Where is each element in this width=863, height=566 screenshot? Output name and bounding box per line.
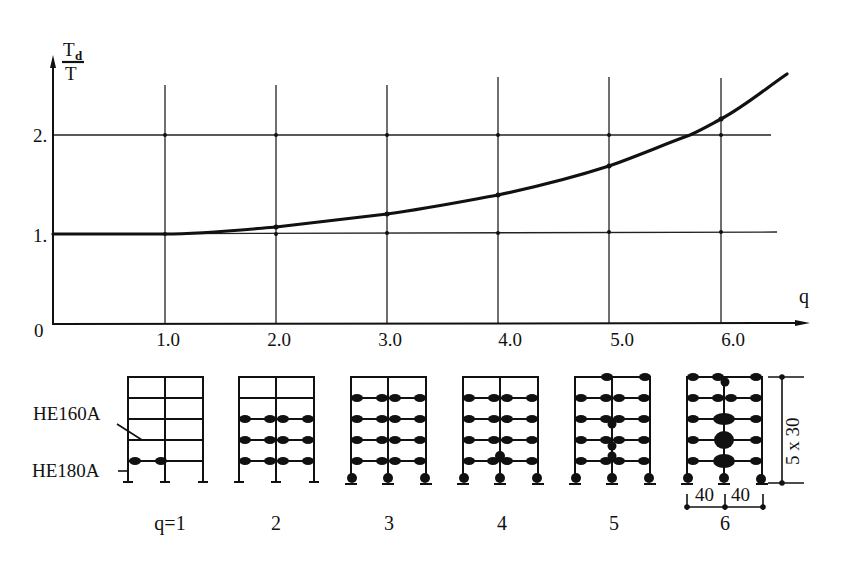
- x-tick-6: 6.0: [721, 329, 745, 350]
- height-dimension-label: 5 x 30: [782, 418, 803, 466]
- y-tick-1: 1.: [33, 225, 47, 246]
- frame-q6: [681, 373, 768, 484]
- frame-q2: [234, 377, 319, 482]
- frame-q5: [569, 373, 656, 484]
- vertical-gridlines: [165, 77, 721, 324]
- y-label-subscript: d: [75, 48, 83, 63]
- horizontal-gridlines: [53, 135, 777, 234]
- x-tick-2: 2.0: [267, 329, 291, 350]
- td-over-t-curve: [53, 74, 787, 234]
- x-axis-arrow-icon: [795, 320, 810, 326]
- figure: T d T 2. 1. 0 1.0 2.0 3.0 4.0 5.0 6.0 q: [0, 0, 863, 566]
- leader-he160a: [117, 424, 142, 440]
- x-axis-label: q: [799, 285, 809, 308]
- grid-intersections: [163, 133, 723, 236]
- bay-dimension-label-2: 40: [731, 484, 750, 505]
- frame-q3: [345, 377, 432, 484]
- frame-caption-6: 6: [720, 512, 730, 534]
- y-label-denominator: T: [65, 63, 77, 84]
- frame-caption-2: 2: [271, 512, 281, 534]
- frame-caption-4: 4: [497, 512, 507, 534]
- frame-q4: [457, 377, 544, 484]
- y-axis-arrow-icon: [50, 55, 56, 68]
- section-label-he180a: HE180A: [32, 460, 100, 481]
- origin-label: 0: [34, 320, 44, 341]
- y-axis-label: T d T: [62, 39, 84, 84]
- frame-q1: [123, 377, 208, 482]
- section-label-he160a: HE160A: [33, 403, 101, 424]
- frame-caption-5: 5: [609, 512, 619, 534]
- x-tick-1: 1.0: [156, 329, 180, 350]
- x-axis: [53, 323, 800, 324]
- frame-caption-3: 3: [384, 512, 394, 534]
- chart: T d T 2. 1. 0 1.0 2.0 3.0 4.0 5.0 6.0 q: [33, 39, 810, 350]
- y-label-numerator: T: [63, 39, 75, 60]
- bay-dimension-label-1: 40: [695, 484, 714, 505]
- frame-caption-1: q=1: [154, 512, 185, 535]
- x-tick-3: 3.0: [378, 329, 402, 350]
- y-tick-2: 2.: [33, 125, 47, 146]
- x-tick-5: 5.0: [610, 329, 634, 350]
- x-tick-4: 4.0: [498, 329, 522, 350]
